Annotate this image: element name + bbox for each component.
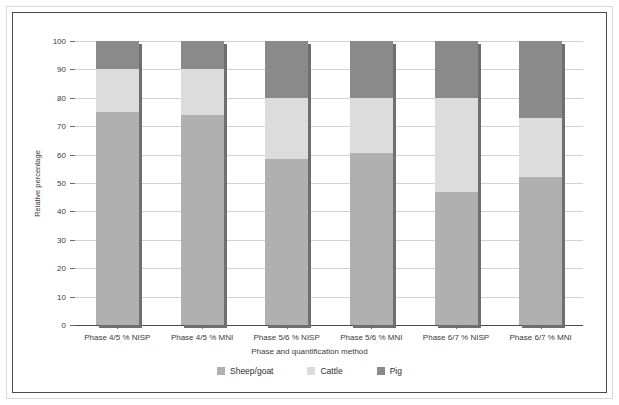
x-axis-tick-mark	[202, 325, 203, 329]
legend-item[interactable]: Pig	[377, 366, 402, 376]
bar-segment-pig[interactable]	[435, 41, 478, 98]
legend-swatch-cattle	[307, 367, 315, 375]
bar-segment-pig[interactable]	[96, 41, 139, 69]
x-axis-tick-mark	[541, 325, 542, 329]
x-axis-tick-label: Phase 6/7 % MNI	[510, 333, 572, 342]
x-axis-tick-mark	[117, 325, 118, 329]
legend-item[interactable]: Cattle	[307, 366, 342, 376]
bar-segment-sheep-goat[interactable]	[181, 115, 224, 325]
y-axis-title-text: Relative percentage	[33, 150, 42, 217]
bar-group	[96, 41, 139, 325]
bar-segment-cattle[interactable]	[96, 69, 139, 112]
y-axis-tick-label: 80	[57, 93, 66, 102]
stacked-bar[interactable]	[265, 41, 308, 325]
legend-swatch-pig	[377, 367, 385, 375]
bar-group	[181, 41, 224, 325]
bar-segment-pig[interactable]	[265, 41, 308, 98]
legend-label: Sheep/goat	[230, 366, 273, 376]
stacked-bar[interactable]	[435, 41, 478, 325]
bar-segment-cattle[interactable]	[265, 98, 308, 159]
bar-segment-cattle[interactable]	[350, 98, 393, 153]
x-axis-title: Phase and quantification method	[0, 347, 619, 356]
bar-segment-sheep-goat[interactable]	[519, 177, 562, 325]
y-axis-tick-label: 40	[57, 207, 66, 216]
bar-segment-pig[interactable]	[519, 41, 562, 118]
stacked-bar[interactable]	[96, 41, 139, 325]
bar-segment-cattle[interactable]	[181, 69, 224, 114]
legend-swatch-sheep-goat	[217, 367, 225, 375]
bar-segment-sheep-goat[interactable]	[96, 112, 139, 325]
x-axis-baseline: 0	[75, 325, 583, 326]
x-axis-tick-label: Phase 5/6 % MNI	[340, 333, 402, 342]
y-axis-tick-label: 30	[57, 235, 66, 244]
bar-group	[435, 41, 478, 325]
y-axis-title: Relative percentage	[31, 41, 43, 325]
x-axis-tick-mark	[371, 325, 372, 329]
bars-layer	[75, 41, 583, 325]
bar-segment-sheep-goat[interactable]	[350, 153, 393, 325]
x-axis-tick-mark	[456, 325, 457, 329]
y-axis-tick-label: 100	[53, 37, 66, 46]
stacked-bar[interactable]	[350, 41, 393, 325]
y-axis-tick-label: 0	[62, 321, 66, 330]
bar-segment-sheep-goat[interactable]	[435, 192, 478, 325]
y-axis-tick-label: 90	[57, 65, 66, 74]
x-axis-tick-label: Phase 5/6 % NISP	[254, 333, 320, 342]
bar-segment-sheep-goat[interactable]	[265, 159, 308, 325]
x-axis-tick-label: Phase 6/7 % NISP	[423, 333, 489, 342]
y-axis-tick-label: 70	[57, 122, 66, 131]
legend-label: Cattle	[320, 366, 342, 376]
bar-segment-pig[interactable]	[350, 41, 393, 98]
y-axis-tick-mark	[70, 325, 75, 326]
x-axis-tick-label: Phase 4/5 % NISP	[84, 333, 150, 342]
bar-group	[265, 41, 308, 325]
y-axis-tick-label: 60	[57, 150, 66, 159]
legend-item[interactable]: Sheep/goat	[217, 366, 273, 376]
y-axis-tick-label: 10	[57, 292, 66, 301]
stacked-bar[interactable]	[181, 41, 224, 325]
bar-segment-cattle[interactable]	[435, 98, 478, 192]
bar-segment-cattle[interactable]	[519, 118, 562, 178]
stacked-bar[interactable]	[519, 41, 562, 325]
x-axis-tick-mark	[287, 325, 288, 329]
x-axis-tick-label: Phase 4/5 % MNI	[171, 333, 233, 342]
y-axis-tick-label: 50	[57, 179, 66, 188]
figure-container: Relative percentage 01020304050607080901…	[0, 0, 619, 405]
plot-area: 0102030405060708090100	[75, 41, 583, 325]
bar-group	[519, 41, 562, 325]
x-axis-title-text: Phase and quantification method	[251, 347, 368, 356]
bar-segment-pig[interactable]	[181, 41, 224, 69]
bar-group	[350, 41, 393, 325]
chart-legend: Sheep/goatCattlePig	[0, 366, 619, 376]
legend-label: Pig	[390, 366, 402, 376]
y-axis-tick-label: 20	[57, 264, 66, 273]
